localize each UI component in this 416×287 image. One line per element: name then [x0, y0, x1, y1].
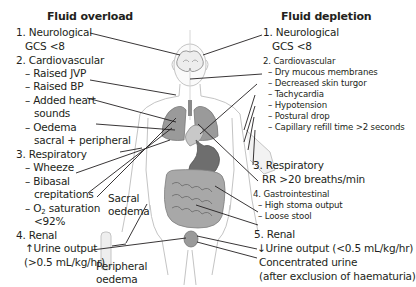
detail: – Added heart: [25, 94, 96, 107]
detail: – Decreased skin turgor: [268, 78, 367, 89]
section-cardiovascular: 2. Cardiovascular: [263, 56, 335, 67]
detail: <92%: [34, 215, 65, 228]
detail: – Hypotension: [268, 100, 327, 111]
detail: – Postural drop: [268, 111, 330, 122]
detail: ↓Urine output (<0.5 mL/kg/hr): [257, 242, 413, 255]
section-cardiovascular: 2. Cardiovascular: [16, 54, 104, 67]
section-renal: 5. Renal: [254, 228, 295, 241]
brain-icon: [177, 51, 204, 72]
bladder-icon: [184, 231, 198, 247]
section-neurological: 1. Neurological: [16, 26, 92, 39]
peripheral-oedema-label: Peripheral: [96, 260, 147, 273]
detail: – Oedema: [25, 121, 77, 134]
section-renal: 4. Renal: [16, 229, 57, 242]
detail: sacral + peripheral: [34, 134, 131, 147]
detail: – Raised BP: [25, 80, 83, 93]
detail: – Bibasal: [25, 175, 70, 188]
section-neurological: 1. Neurological: [263, 26, 339, 39]
sacral-oedema-label: Sacral: [108, 192, 139, 205]
panel-title: Fluid overload: [47, 10, 133, 23]
detail: sounds: [34, 107, 70, 120]
detail: – Tachycardia: [268, 89, 324, 100]
detail: – Loose stool: [258, 211, 311, 222]
detail: RR >20 breaths/min: [262, 173, 365, 186]
detail: GCS <8: [25, 40, 65, 53]
detail: – Dry mucous membranes: [268, 67, 378, 78]
detail: GCS <8: [272, 40, 312, 53]
detail: (>0.5 mL/kg/hr): [24, 256, 105, 269]
detail: ↑Urine output: [25, 242, 97, 255]
panel-title: Fluid depletion: [281, 10, 371, 23]
section-respiratory: 3. Respiratory: [16, 148, 87, 161]
detail: – Raised JVP: [25, 67, 86, 80]
peripheral-oedema-label-2: oedema: [96, 273, 137, 286]
intestines-icon: [164, 170, 225, 228]
section-gastrointestinal: 4. Gastrointestinal: [253, 189, 329, 200]
sacral-oedema-label-2: oedema: [108, 205, 149, 218]
heart-icon: [186, 125, 204, 146]
section-respiratory: 3. Respiratory: [253, 159, 324, 172]
detail: – Wheeze: [25, 161, 74, 174]
detail: crepitations: [34, 188, 94, 201]
detail: – High stoma output: [258, 200, 342, 211]
detail: (after exclusion of haematuria): [259, 270, 416, 283]
detail: Concentrated urine: [259, 256, 357, 269]
saturation-text: saturation: [46, 202, 101, 214]
o2-text: – O: [25, 202, 41, 214]
detail: – Capillary refill time >2 seconds: [268, 122, 405, 133]
